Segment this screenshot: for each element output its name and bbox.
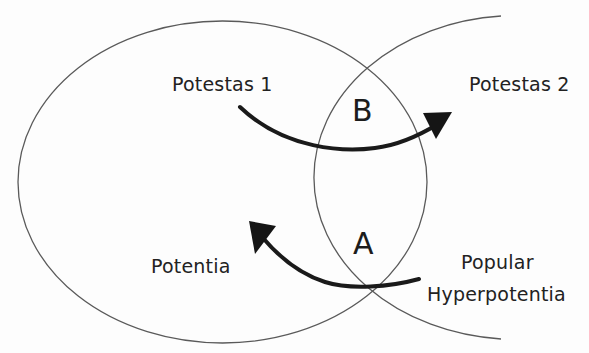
- venn-diagram: Potestas 1 Potestas 2 Potentia Popular H…: [0, 0, 589, 353]
- arrow-b-curve: [240, 107, 438, 149]
- region-label-b: B: [352, 96, 373, 126]
- arrow-a-curve: [263, 238, 419, 287]
- label-potestas-1: Potestas 1: [172, 73, 273, 96]
- label-hyperpotentia: Hyperpotentia: [427, 283, 566, 306]
- label-potentia: Potentia: [151, 255, 231, 278]
- region-label-a: A: [353, 229, 374, 259]
- label-popular: Popular: [461, 251, 534, 274]
- arrow-b-head-icon: [423, 112, 452, 139]
- label-potestas-2: Potestas 2: [469, 73, 570, 96]
